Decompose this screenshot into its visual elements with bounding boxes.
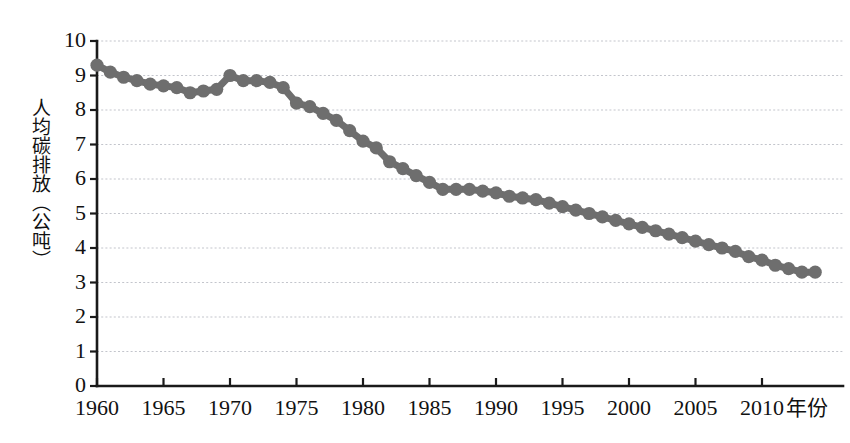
x-axis-title: 年份: [786, 396, 828, 420]
x-tick-label-2000: 2000: [599, 396, 659, 420]
x-tick-label-1990: 1990: [466, 396, 526, 420]
x-tick-label-1965: 1965: [134, 396, 194, 420]
x-tick-label-1960: 1960: [67, 396, 127, 420]
x-tick-label-1985: 1985: [400, 396, 460, 420]
x-tick-label-2005: 2005: [666, 396, 726, 420]
carbon-emissions-chart: 人均碳排放（公吨） 012345678910 19601965197019751…: [0, 0, 850, 443]
x-tick-label-1980: 1980: [333, 396, 393, 420]
x-tick-label-1995: 1995: [533, 396, 593, 420]
x-tick-label-2010: 2010: [732, 396, 792, 420]
x-tick-label-1970: 1970: [200, 396, 260, 420]
x-tick-label-1975: 1975: [267, 396, 327, 420]
x-axis-tick-labels: 1960196519701975198019851990199520002005…: [0, 0, 850, 443]
